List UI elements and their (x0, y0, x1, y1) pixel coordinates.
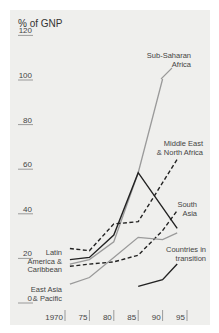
y-tick-label: 0 (28, 294, 33, 303)
series-label-east-asia-pacific: & Pacific (33, 294, 62, 303)
series-labels: Sub-SaharanAfricaLatinAmerica &Caribbean… (27, 51, 206, 303)
y-tick-label: 60 (23, 160, 32, 169)
line-chart: % of GNP 020406080100120 19707580859095 … (0, 0, 219, 333)
x-tick-label: 1970 (45, 313, 63, 322)
x-tick-label: 80 (103, 313, 112, 322)
y-tick-label: 40 (23, 205, 32, 214)
y-tick-label: 100 (19, 71, 33, 80)
series-label-sub-saharan-africa: Africa (172, 60, 192, 69)
y-tick-label: 80 (23, 116, 32, 125)
x-axis: 19707580859095 (45, 310, 187, 322)
series-label-middle-east-north-africa: & North Africa (157, 148, 204, 157)
x-tick-label: 85 (127, 313, 136, 322)
series-line-sub-saharan-africa (70, 79, 163, 264)
series-label-countries-in-transition: transition (176, 254, 206, 263)
series-line-countries-in-transition (138, 264, 177, 286)
series-label-south-asia: Asia (182, 209, 197, 218)
x-tick-label: 75 (78, 313, 87, 322)
series-lines (70, 79, 177, 286)
series-label-latin-america-caribbean: Caribbean (27, 265, 62, 274)
x-tick-label: 95 (176, 313, 185, 322)
series-line-latin-america-caribbean (70, 173, 177, 260)
y-tick-label: 120 (19, 26, 33, 35)
leader-line-sub-saharan-africa (161, 68, 172, 79)
x-tick-label: 90 (152, 313, 161, 322)
